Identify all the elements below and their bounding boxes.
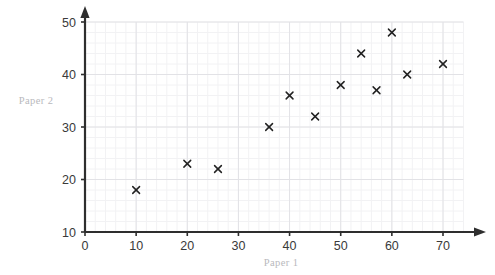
x-axis-title: Paper 1 — [264, 257, 299, 268]
x-axis-tick-label: 0 — [82, 239, 89, 253]
data-point-marker — [373, 87, 380, 94]
y-axis-tick-label: 40 — [62, 68, 76, 82]
y-axis-tick-label: 20 — [62, 173, 76, 187]
axis-ticks — [81, 22, 443, 236]
x-axis-tick-label: 20 — [180, 239, 194, 253]
y-axis-tick-label: 30 — [62, 121, 76, 135]
x-axis-tick-label: 50 — [334, 239, 348, 253]
x-axis-arrowhead — [474, 227, 486, 236]
y-axis-tick-label: 10 — [62, 226, 76, 240]
scatter-plot: 0102030405060701020304050 Paper 1 Paper … — [0, 0, 495, 275]
x-axis-tick-label: 40 — [283, 239, 297, 253]
x-axis-tick-label: 70 — [436, 239, 450, 253]
x-axis-tick-label: 30 — [231, 239, 245, 253]
y-axis-tick-label: 50 — [62, 16, 76, 30]
y-axis-arrowhead — [80, 6, 89, 18]
scatter-chart-page: 0102030405060701020304050 Paper 1 Paper … — [0, 0, 495, 275]
axes — [80, 6, 486, 237]
x-axis-tick-label: 10 — [129, 239, 143, 253]
x-axis-tick-label: 60 — [385, 239, 399, 253]
y-axis-title: Paper 2 — [19, 95, 54, 106]
